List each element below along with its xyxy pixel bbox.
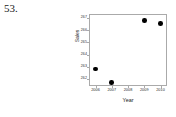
y-tick-label: 264 xyxy=(74,53,87,57)
y-tick-mark xyxy=(87,42,89,43)
x-tick-label: 2010 xyxy=(152,88,170,92)
x-tick-mark xyxy=(96,86,97,88)
data-point xyxy=(158,21,163,26)
x-tick-mark xyxy=(112,86,113,88)
y-tick-mark xyxy=(87,30,89,31)
y-tick-mark xyxy=(87,67,89,68)
x-axis-title: Year xyxy=(89,97,167,103)
y-tick-label: 263 xyxy=(74,65,87,69)
y-tick-mark xyxy=(87,79,89,80)
y-axis-title: Sales xyxy=(74,19,80,53)
y-tick-mark xyxy=(87,55,89,56)
figure-number: 53. xyxy=(4,2,18,14)
data-point xyxy=(93,67,98,72)
y-tick-mark xyxy=(87,18,89,19)
plot-area xyxy=(89,14,167,86)
y-tick-label: 262 xyxy=(74,77,87,81)
data-point xyxy=(109,80,114,85)
x-tick-mark xyxy=(128,86,129,88)
x-axis-tick-labels: 20062007200820092010 xyxy=(89,88,167,95)
data-point xyxy=(142,18,147,23)
x-tick-mark xyxy=(161,86,162,88)
scatter-chart: 53. 262263264265266267 Sales 20062007200… xyxy=(0,0,176,117)
x-tick-mark xyxy=(144,86,145,88)
